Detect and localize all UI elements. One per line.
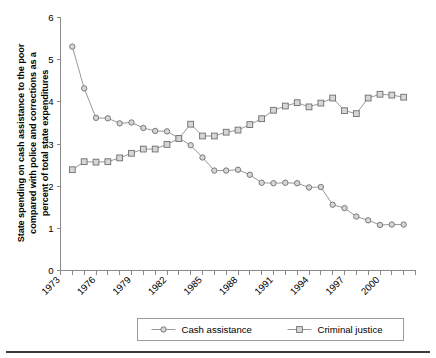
data-point-marker [81, 159, 87, 165]
data-point-marker [223, 129, 229, 135]
data-point-marker [200, 155, 205, 160]
legend-item-label: Criminal justice [318, 324, 383, 335]
x-axis-tick-label: 1994 [288, 274, 311, 297]
data-point-marker [342, 205, 347, 210]
data-point-marker [93, 115, 98, 120]
data-point-marker [105, 116, 110, 121]
data-point-marker [140, 146, 146, 152]
data-point-marker [235, 127, 241, 133]
y-axis-label-line-2: compared with police and corrections as … [28, 52, 38, 234]
y-axis-label-line-1: State spending on cash assistance to the… [16, 44, 26, 243]
chart-series-2 [69, 91, 406, 172]
data-point-marker [283, 180, 288, 185]
data-point-marker [377, 91, 383, 97]
chart-plot-area: 0123456 19731976197919821985198819911994… [0, 0, 436, 358]
data-point-marker [235, 167, 240, 172]
data-point-marker [282, 103, 288, 109]
data-point-marker [401, 94, 407, 100]
data-point-marker [129, 150, 135, 156]
x-axis-tick-label: 1991 [252, 274, 275, 297]
x-axis-tick-label: 1982 [146, 274, 169, 297]
data-point-marker [223, 168, 228, 173]
x-axis-tick-label: 2000 [359, 274, 382, 297]
data-point-marker [211, 133, 217, 139]
data-point-marker [188, 121, 194, 127]
data-point-marker [342, 108, 348, 114]
data-point-marker [81, 86, 86, 91]
legend-item-label: Cash assistance [182, 324, 252, 335]
data-point-marker [401, 222, 406, 227]
data-point-marker [377, 222, 382, 227]
data-point-marker [271, 181, 276, 186]
data-point-marker [105, 159, 111, 165]
data-point-marker [152, 146, 158, 152]
data-point-marker [318, 184, 323, 189]
series-line [72, 47, 403, 225]
data-point-marker [212, 168, 217, 173]
x-axis-tick-label: 1988 [217, 274, 240, 297]
data-point-marker [365, 95, 371, 101]
data-point-marker [389, 222, 394, 227]
data-point-marker [117, 121, 122, 126]
x-axis-tick-label: 1979 [110, 274, 133, 297]
data-point-marker [306, 104, 312, 110]
x-axis-tick-label: 1976 [75, 274, 98, 297]
chart-figure: State spending on cash assistance to the… [0, 0, 436, 358]
data-point-marker [318, 100, 324, 106]
data-point-marker [294, 100, 300, 106]
data-point-marker [389, 92, 395, 98]
legend-circle-icon [161, 327, 166, 332]
data-point-marker [152, 128, 157, 133]
data-point-marker [365, 218, 370, 223]
data-point-marker [330, 202, 335, 207]
data-point-marker [259, 180, 264, 185]
data-point-marker [93, 159, 99, 165]
data-point-marker [69, 167, 75, 173]
data-point-marker [164, 142, 170, 148]
data-point-marker [330, 95, 336, 101]
y-axis-label-line-3: percent of total state expenditures [40, 70, 50, 217]
data-point-marker [188, 143, 193, 148]
x-axis-tick-label: 1997 [323, 274, 346, 297]
data-point-marker [70, 44, 75, 49]
chart-series-1 [70, 44, 407, 228]
x-axis-tick-label: 1985 [181, 274, 204, 297]
chart-series-group [69, 44, 406, 228]
data-point-marker [117, 155, 123, 161]
chart-legend: Cash assistanceCriminal justice [138, 319, 404, 341]
data-point-marker [141, 125, 146, 130]
data-point-marker [200, 133, 206, 139]
x-axis: 1973197619791982198519881991199419972000 [39, 271, 415, 298]
data-point-marker [294, 181, 299, 186]
data-point-marker [164, 129, 169, 134]
data-point-marker [129, 120, 134, 125]
data-point-marker [259, 116, 265, 122]
data-point-marker [271, 107, 277, 113]
data-point-marker [354, 214, 359, 219]
data-point-marker [176, 136, 182, 142]
x-axis-tick-label: 1973 [39, 274, 62, 297]
y-axis-label-text: State spending on cash assistance to the… [16, 15, 51, 271]
y-axis-label: State spending on cash assistance to the… [8, 14, 60, 272]
data-point-marker [306, 185, 311, 190]
data-point-marker [353, 111, 359, 117]
data-point-marker [247, 122, 253, 128]
data-point-marker [247, 172, 252, 177]
legend-square-icon [297, 327, 303, 333]
